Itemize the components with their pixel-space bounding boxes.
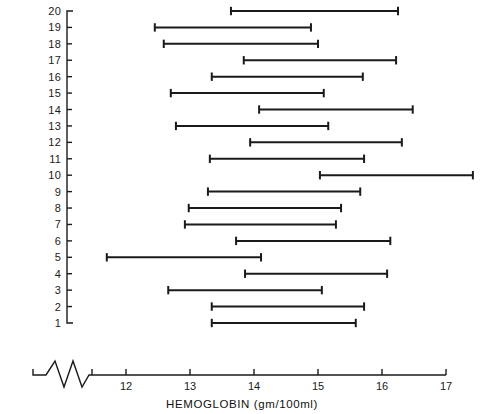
y-axis: [67, 11, 73, 323]
hemoglobin-range-chart: 2019181716151413121110987654321 12131415…: [0, 0, 484, 414]
range-bar-subject-9: [208, 187, 360, 195]
y-tick-label: 15: [48, 87, 61, 99]
y-tick-label: 10: [48, 169, 61, 181]
x-tick-label: 12: [120, 380, 132, 392]
x-axis-title: HEMOGLOBIN (gm/100ml): [166, 398, 318, 410]
y-tick-label: 8: [55, 202, 61, 214]
range-bar-subject-15: [171, 89, 324, 97]
y-tick-labels: 2019181716151413121110987654321: [48, 5, 61, 329]
x-tick-label: 15: [312, 380, 324, 392]
y-tick-label: 7: [55, 218, 61, 230]
chart-canvas: 2019181716151413121110987654321 12131415…: [0, 0, 484, 414]
range-bar-subject-6: [236, 237, 390, 245]
range-bar-subject-1: [212, 319, 356, 327]
range-bar-subject-18: [164, 40, 318, 48]
y-tick-label: 1: [55, 317, 61, 329]
range-bar-subject-16: [212, 72, 363, 80]
x-tick-label: 16: [376, 380, 388, 392]
y-tick-label: 18: [48, 38, 61, 50]
range-bars: [107, 7, 473, 327]
y-tick-label: 17: [48, 54, 61, 66]
range-bar-subject-19: [155, 23, 311, 31]
x-tick-label: 14: [248, 380, 260, 392]
range-bar-subject-7: [185, 220, 336, 228]
y-tick-label: 12: [48, 136, 61, 148]
y-tick-label: 5: [55, 251, 61, 263]
x-tick-labels: 121314151617: [120, 380, 452, 392]
range-bar-subject-11: [210, 155, 364, 163]
y-tick-label: 6: [55, 235, 61, 247]
y-tick-label: 9: [55, 186, 61, 198]
y-tick-label: 13: [48, 120, 61, 132]
x-tick-label: 17: [440, 380, 452, 392]
y-tick-label: 20: [48, 5, 61, 17]
y-tick-label: 16: [48, 71, 61, 83]
y-tick-label: 3: [55, 284, 61, 296]
range-bar-subject-14: [259, 105, 413, 113]
range-bar-subject-2: [212, 302, 364, 310]
range-bar-subject-8: [189, 204, 341, 212]
y-tick-label: 14: [48, 104, 61, 116]
y-tick-label: 19: [48, 21, 61, 33]
range-bar-subject-20: [231, 7, 398, 15]
range-bar-subject-10: [320, 171, 473, 179]
x-tick-label: 13: [184, 380, 196, 392]
y-tick-label: 2: [55, 301, 61, 313]
range-bar-subject-12: [250, 138, 402, 146]
y-tick-label: 4: [55, 268, 61, 280]
range-bar-subject-13: [176, 122, 328, 130]
range-bar-subject-4: [245, 270, 387, 278]
range-bar-subject-5: [107, 253, 261, 261]
range-bar-subject-17: [244, 56, 396, 64]
y-tick-label: 11: [49, 153, 61, 165]
range-bar-subject-3: [168, 286, 322, 294]
